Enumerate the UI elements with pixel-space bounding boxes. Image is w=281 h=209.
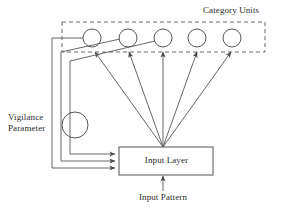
bottom-up-connections bbox=[95, 52, 231, 147]
category-unit-4 bbox=[188, 29, 206, 47]
category-unit-3 bbox=[154, 29, 172, 47]
vigilance-label-line-1: Vigilance bbox=[8, 112, 43, 122]
bottom-up-to-unit-2 bbox=[129, 52, 163, 147]
feedback-path-3 bbox=[70, 41, 155, 154]
bottom-up-to-unit-1 bbox=[95, 52, 163, 147]
diagram-canvas bbox=[0, 0, 281, 209]
bottom-up-to-unit-4 bbox=[163, 52, 197, 147]
category-unit-1 bbox=[83, 29, 101, 47]
input-layer-label: Input Layer bbox=[119, 155, 214, 165]
vigilance-label-line-2: Parameter bbox=[8, 123, 45, 133]
category-units-label: Category Units bbox=[203, 5, 259, 15]
art-network-diagram: Category Units VigilanceParameter Input … bbox=[0, 0, 281, 209]
category-unit-5 bbox=[223, 29, 241, 47]
category-unit-2 bbox=[119, 29, 137, 47]
vigilance-parameter-label: VigilanceParameter bbox=[8, 112, 45, 134]
input-pattern-label: Input Pattern bbox=[113, 192, 213, 202]
vigilance-parameter-node bbox=[62, 112, 88, 138]
bottom-up-to-unit-5 bbox=[163, 52, 231, 147]
